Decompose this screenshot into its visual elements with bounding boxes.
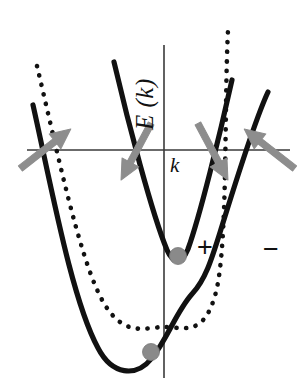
plus-branch-minimum-marker: [170, 248, 187, 265]
band-dispersion-figure: E (k) k + −: [0, 0, 298, 390]
dispersion-plot-canvas: [0, 0, 298, 390]
plus-branch-label: +: [197, 234, 213, 261]
energy-axis-label: E (k): [132, 78, 157, 130]
momentum-axis-label: k: [170, 155, 179, 176]
minus-branch-minimum-marker: [143, 344, 160, 361]
minus-branch-label: −: [263, 236, 279, 263]
spin-arrow-inner-right-icon: [190, 119, 237, 184]
